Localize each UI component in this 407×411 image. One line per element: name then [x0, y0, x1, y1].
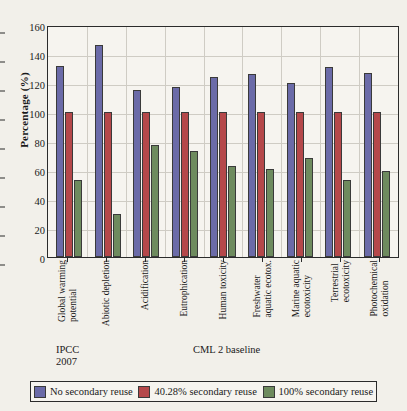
bar-group: [127, 27, 165, 257]
legend-swatch: [263, 386, 275, 398]
bar-group: [88, 27, 126, 257]
bar: [190, 151, 198, 257]
x-axis-tick-label: Human toxicity: [218, 260, 229, 319]
x-axis-label-cell: Photochemicaloxidation: [360, 258, 399, 344]
bar: [113, 214, 121, 258]
bar-group: [204, 27, 242, 257]
annotation-ipcc: IPCC2007: [56, 344, 79, 368]
y-axis-tick-label: 40: [5, 196, 45, 207]
y-axis-tick-mark: [0, 265, 5, 266]
y-axis-tick-mark: [0, 207, 5, 208]
annotation-cml: CML 2 baseline: [193, 344, 260, 355]
x-axis-tick-label: Marine aquaticecotoxicity: [291, 260, 312, 317]
bar: [257, 112, 265, 257]
annotation-line: 2007: [56, 356, 79, 368]
x-axis-label-line: Terrestrial: [330, 260, 341, 302]
x-axis-label-line: Freshwater: [252, 260, 263, 318]
x-axis-label-cell: Marine aquaticecotoxicity: [282, 258, 321, 344]
x-axis-label-line: ecotoxicity: [340, 260, 351, 302]
bar: [382, 171, 390, 257]
bar: [210, 77, 218, 257]
legend-swatch: [34, 386, 46, 398]
x-axis-labels: Global warmingpotentialAbiotic depletion…: [47, 258, 399, 344]
x-axis-label-cell: Human toxicity: [203, 258, 242, 344]
y-axis-tick-mark: [0, 33, 5, 34]
plot-area: 020406080100120140160: [47, 26, 399, 258]
x-axis-label-line: Acidification: [140, 260, 151, 310]
y-axis-tick-label: 100: [5, 109, 45, 120]
y-axis-tick-label: 160: [5, 22, 45, 33]
bar: [373, 112, 381, 257]
bar: [65, 112, 73, 257]
bar-group: [358, 27, 396, 257]
legend-item: No secondary reuse: [34, 386, 133, 398]
bar: [151, 145, 159, 257]
y-axis-tick-mark: [0, 178, 5, 179]
bar: [305, 158, 313, 257]
legend-label: 40.28% secondary reuse: [154, 386, 256, 397]
x-axis-label-line: Photochemical: [369, 260, 380, 316]
bar: [287, 83, 295, 257]
y-axis-tick-label: 20: [5, 225, 45, 236]
legend-label: No secondary reuse: [50, 386, 133, 397]
x-axis-label-cell: Abiotic depletion: [86, 258, 125, 344]
x-axis-label-line: aquatic ecotox.: [262, 260, 273, 318]
bar-group: [242, 27, 280, 257]
y-axis-tick-mark: [0, 236, 5, 237]
x-axis-label-line: potential: [67, 260, 78, 322]
bar-group: [50, 27, 88, 257]
bar: [228, 166, 236, 257]
bar: [133, 90, 141, 257]
bar-group: [281, 27, 319, 257]
bar: [266, 169, 274, 257]
bar: [219, 112, 227, 257]
x-axis-label-cell: Eutrophication: [164, 258, 203, 344]
x-axis-label-line: oxidation: [379, 260, 390, 316]
bar: [248, 74, 256, 257]
y-axis-tick-label: 140: [5, 51, 45, 62]
x-axis-label-line: Eutrophication: [179, 260, 190, 316]
y-axis-tick-mark: [0, 62, 5, 63]
x-axis-tick-label: Abiotic depletion: [100, 260, 111, 326]
bar-chart-figure: Percentage (%) 020406080100120140160 Glo…: [0, 0, 407, 411]
y-axis-tick-mark: [0, 149, 5, 150]
x-axis-label-line: Global warming: [56, 260, 67, 322]
bar: [95, 45, 103, 257]
y-axis-tick-label: 80: [5, 138, 45, 149]
bar: [296, 112, 304, 257]
x-axis-label-cell: Freshwateraquatic ecotox.: [243, 258, 282, 344]
bar: [172, 87, 180, 257]
y-axis-tick-label: 60: [5, 167, 45, 178]
x-axis-label-line: ecotoxicity: [301, 260, 312, 317]
bar: [56, 66, 64, 257]
bar: [343, 180, 351, 257]
chart-legend: No secondary reuse40.28% secondary reuse…: [30, 381, 377, 402]
legend-item: 100% secondary reuse: [263, 386, 373, 398]
x-axis-tick-label: Eutrophication: [179, 260, 190, 316]
legend-label: 100% secondary reuse: [279, 386, 373, 397]
annotation-line: CML 2 baseline: [193, 344, 260, 355]
x-axis-tick-label: Acidification: [140, 260, 151, 310]
y-axis-tick-label: 0: [5, 254, 45, 265]
x-axis-tick-label: Freshwateraquatic ecotox.: [252, 260, 273, 318]
bar-groups: [48, 27, 398, 257]
y-axis-tick-label: 120: [5, 80, 45, 91]
bar: [364, 73, 372, 257]
x-axis-label-cell: Global warmingpotential: [47, 258, 86, 344]
x-axis-label-line: Abiotic depletion: [100, 260, 111, 326]
x-axis-label-cell: Terrestrialecotoxicity: [321, 258, 360, 344]
bar: [142, 112, 150, 257]
annotation-line: IPCC: [56, 344, 79, 356]
x-axis-tick-label: Global warmingpotential: [56, 260, 77, 322]
bar: [181, 112, 189, 257]
bar: [334, 112, 342, 257]
x-axis-tick-label: Photochemicaloxidation: [369, 260, 390, 316]
bar: [104, 112, 112, 257]
y-axis-tick-mark: [0, 120, 5, 121]
bar-group: [165, 27, 203, 257]
legend-item: 40.28% secondary reuse: [138, 386, 256, 398]
x-axis-label-line: Human toxicity: [218, 260, 229, 319]
y-axis-tick-mark: [0, 91, 5, 92]
legend-swatch: [138, 386, 150, 398]
x-axis-label-cell: Acidification: [125, 258, 164, 344]
